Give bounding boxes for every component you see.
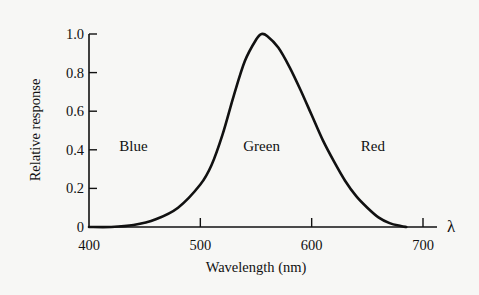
y-tick-label: 0: [77, 219, 84, 235]
y-tick-label: 0.6: [66, 103, 84, 119]
axes: [89, 34, 437, 227]
x-tick-label: 600: [301, 237, 323, 253]
x-axis-label: Wavelength (nm): [206, 259, 307, 276]
luminosity-chart: 00.20.40.60.81.0 400500600700 BlueGreenR…: [0, 0, 479, 295]
region-label-green: Green: [243, 138, 280, 154]
x-ticks: 400500600700: [78, 218, 434, 253]
y-tick-label: 0.2: [66, 180, 84, 196]
response-curve: [89, 34, 406, 227]
y-tick-label: 1.0: [66, 26, 84, 42]
x-tick-label: 700: [412, 237, 434, 253]
y-tick-label: 0.4: [66, 142, 85, 158]
y-tick-label: 0.8: [66, 65, 84, 81]
x-tick-label: 400: [78, 237, 100, 253]
y-axis-label: Relative response: [27, 79, 43, 182]
region-label-blue: Blue: [119, 138, 148, 154]
y-ticks: 00.20.40.60.81.0: [66, 26, 97, 235]
color-region-labels: BlueGreenRed: [119, 138, 385, 154]
lambda-symbol: λ: [447, 217, 456, 236]
x-tick-label: 500: [189, 237, 211, 253]
region-label-red: Red: [361, 138, 386, 154]
